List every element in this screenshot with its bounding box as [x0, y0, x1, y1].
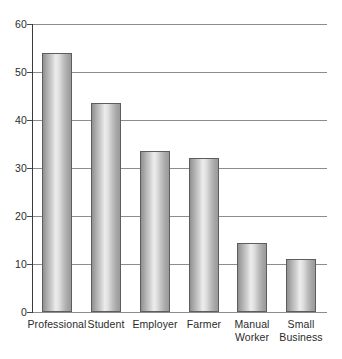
- y-axis-line: [32, 24, 33, 313]
- y-axis-label-10: 10: [5, 259, 27, 270]
- bar-employer: [140, 151, 170, 312]
- y-tick-40: [27, 120, 32, 121]
- y-tick-10: [27, 264, 32, 265]
- y-axis-label-30: 30: [5, 163, 27, 174]
- bar-student: [91, 103, 121, 312]
- y-tick-50: [27, 72, 32, 73]
- y-axis-label-0: 0: [5, 307, 27, 318]
- bar-manual-worker: [237, 243, 267, 312]
- gridline-30: [32, 168, 327, 169]
- x-axis-label-small-business: SmallBusiness: [261, 318, 341, 343]
- bar-chart: 60 50 40 30 20 10 0 Professional Student…: [0, 0, 342, 359]
- y-axis-label-50: 50: [5, 67, 27, 78]
- gridline-0-baseline: [32, 312, 327, 313]
- y-tick-60: [27, 24, 32, 25]
- y-axis-label-20: 20: [5, 211, 27, 222]
- gridline-10: [32, 264, 327, 265]
- plot-area: 60 50 40 30 20 10 0 Professional Student…: [0, 0, 342, 359]
- bar-small-business: [286, 259, 316, 312]
- bar-farmer: [189, 158, 219, 312]
- y-axis-label-40: 40: [5, 115, 27, 126]
- y-axis-label-60: 60: [5, 19, 27, 30]
- gridline-60: [32, 24, 327, 25]
- y-tick-30: [27, 168, 32, 169]
- gridline-50: [32, 72, 327, 73]
- gridline-20: [32, 216, 327, 217]
- y-tick-20: [27, 216, 32, 217]
- y-tick-0: [27, 312, 32, 313]
- gridline-40: [32, 120, 327, 121]
- bar-professional: [42, 53, 72, 312]
